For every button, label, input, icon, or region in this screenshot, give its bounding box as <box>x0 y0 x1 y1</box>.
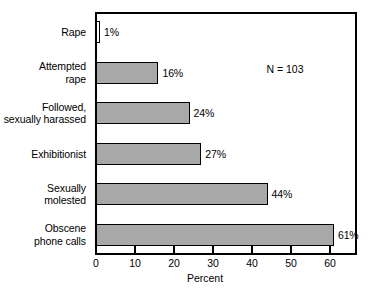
category-label-line: Obscene <box>45 222 86 235</box>
category-label-line: phone calls <box>34 235 86 248</box>
category-label: Followed,sexually harassed <box>0 93 90 134</box>
category-label: Attemptedrape <box>0 53 90 94</box>
x-axis-tick-label: 50 <box>285 257 297 269</box>
bar: 24% <box>96 102 190 124</box>
bar-value-label: 44% <box>272 188 293 200</box>
bars-container: 1%16%24%27%44%61% <box>96 12 357 255</box>
bar-value-label: 27% <box>205 148 226 160</box>
sample-size-annotation: N = 103 <box>266 63 303 75</box>
bar-row: 16% <box>96 53 357 94</box>
category-label-line: sexually harassed <box>4 113 86 126</box>
bar: 44% <box>96 183 268 205</box>
bar-row: 24% <box>96 93 357 134</box>
bar-value-label: 1% <box>104 26 119 38</box>
x-axis-tick-label: 40 <box>246 257 258 269</box>
category-label-line: Attempted <box>39 60 86 73</box>
x-axis-title: Percent <box>187 272 223 284</box>
x-axis-tick-label: 0 <box>93 257 99 269</box>
bar-row: 27% <box>96 134 357 175</box>
category-label-line: molested <box>44 194 86 207</box>
category-label-line: rape <box>65 73 86 86</box>
bar-value-label: 61% <box>338 229 359 241</box>
bar: 61% <box>96 224 334 246</box>
bar-value-label: 16% <box>162 67 183 79</box>
x-axis-tick-label: 60 <box>324 257 336 269</box>
x-axis-tick-label: 10 <box>129 257 141 269</box>
category-label-line: Followed, <box>42 101 86 114</box>
bar: 27% <box>96 143 201 165</box>
category-label: Rape <box>0 12 90 53</box>
bar: 16% <box>96 62 158 84</box>
category-label: Exhibitionist <box>0 134 90 175</box>
category-label-line: Exhibitionist <box>31 148 86 161</box>
bar-row: 61% <box>96 215 357 256</box>
category-axis-labels: RapeAttemptedrapeFollowed,sexually haras… <box>0 12 90 255</box>
bar-value-label: 24% <box>194 107 215 119</box>
x-axis-tick-label: 20 <box>168 257 180 269</box>
bar-chart: RapeAttemptedrapeFollowed,sexually haras… <box>0 0 375 293</box>
category-label-line: Sexually <box>47 182 86 195</box>
x-axis-tick-label: 30 <box>207 257 219 269</box>
category-label: Sexuallymolested <box>0 174 90 215</box>
category-label: Obscenephone calls <box>0 215 90 256</box>
bar-row: 44% <box>96 174 357 215</box>
bar-row: 1% <box>96 12 357 53</box>
bar: 1% <box>96 21 100 43</box>
category-label-line: Rape <box>61 26 86 39</box>
